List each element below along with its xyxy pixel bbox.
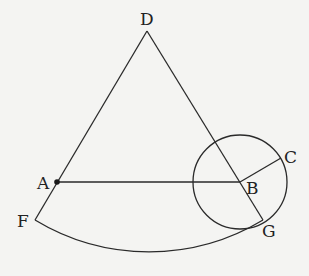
label-G: G bbox=[262, 221, 276, 241]
arc-FG bbox=[35, 220, 263, 252]
label-A: A bbox=[36, 173, 50, 193]
geometry-diagram: D A F B C G bbox=[0, 0, 309, 276]
point-A-marker bbox=[54, 179, 60, 185]
label-B: B bbox=[246, 178, 259, 198]
segment-DF bbox=[35, 31, 147, 220]
label-C: C bbox=[284, 147, 297, 167]
diagram-canvas: D A F B C G bbox=[0, 0, 309, 276]
label-F: F bbox=[17, 211, 29, 231]
label-D: D bbox=[140, 9, 154, 29]
